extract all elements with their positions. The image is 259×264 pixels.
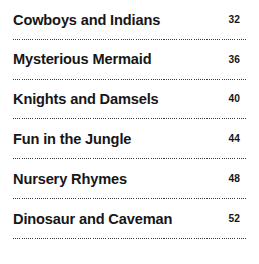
toc-entry[interactable]: Mysterious Mermaid 36: [0, 40, 259, 80]
toc-entry[interactable]: Knights and Damsels 40: [0, 80, 259, 120]
toc-entry-page-number: 32: [226, 15, 240, 25]
toc-entry-title: Mysterious Mermaid: [13, 52, 151, 67]
toc-entry-page-number: 52: [226, 214, 240, 224]
toc-entry-list: Cowboys and Indians 32 Mysterious Mermai…: [0, 0, 259, 239]
toc-entry-page-number: 44: [226, 134, 240, 144]
toc-entry-page-number: 40: [226, 94, 240, 104]
toc-entry-page-number: 48: [226, 174, 240, 184]
toc-entry-title: Dinosaur and Caveman: [13, 212, 172, 227]
toc-entry-page-number: 36: [226, 55, 240, 65]
toc-entry-title: Fun in the Jungle: [13, 132, 131, 147]
toc-entry[interactable]: Nursery Rhymes 48: [0, 159, 259, 199]
toc-entry-title: Nursery Rhymes: [13, 172, 127, 187]
table-of-contents: Cowboys and Indians 32 Mysterious Mermai…: [0, 0, 259, 264]
toc-entry[interactable]: Cowboys and Indians 32: [0, 0, 259, 40]
toc-entry[interactable]: Dinosaur and Caveman 52: [0, 199, 259, 239]
toc-entry-title: Knights and Damsels: [13, 92, 159, 107]
toc-entry[interactable]: Fun in the Jungle 44: [0, 119, 259, 159]
toc-entry-divider: [13, 238, 247, 239]
toc-entry-title: Cowboys and Indians: [13, 13, 160, 28]
